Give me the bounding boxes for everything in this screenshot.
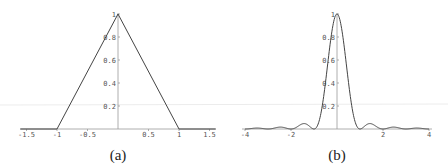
x-tick-label: -1.5 — [18, 131, 35, 139]
y-tick-label: 0.4 — [322, 80, 335, 88]
x-tick-label: 0.5 — [142, 131, 155, 139]
scan-artifact-line — [0, 104, 448, 105]
y-tick-label: 0.2 — [103, 103, 116, 111]
y-tick-label: 0.6 — [103, 57, 116, 65]
x-ticks: -1.5-1-0.50.511.5 — [18, 129, 216, 139]
plot-b: -4-224 0.20.40.60.81 (b) — [241, 11, 432, 165]
x-tick-label: 4 — [427, 131, 431, 139]
x-tick-label: -2 — [287, 131, 295, 139]
x-tick-label: 1.5 — [203, 131, 216, 139]
figure: -1.5-1-0.50.511.5 0.20.40.60.81 (a) -4-2… — [0, 0, 448, 168]
y-tick-label: 0.8 — [322, 34, 335, 42]
x-tick-label: -4 — [241, 131, 249, 139]
x-tick-label: -1 — [53, 131, 61, 139]
caption-a: (a) — [110, 147, 127, 164]
x-tick-label: 1 — [177, 131, 181, 139]
y-ticks: 0.20.40.60.81 — [322, 11, 339, 111]
x-ticks: -4-224 — [241, 129, 431, 139]
caption-b: (b) — [328, 147, 346, 164]
y-tick-label: 1 — [112, 11, 116, 19]
x-tick-label: 2 — [381, 131, 385, 139]
plot-a: -1.5-1-0.50.511.5 0.20.40.60.81 (a) — [18, 11, 216, 165]
y-tick-label: 0.2 — [322, 103, 335, 111]
y-tick-label: 0.4 — [103, 80, 116, 88]
x-tick-label: -0.5 — [79, 131, 96, 139]
